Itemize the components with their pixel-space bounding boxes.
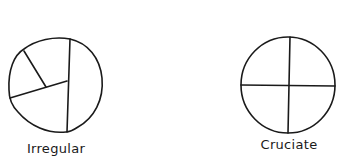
irregular-diagram <box>9 38 102 132</box>
cruciate-label: Cruciate <box>229 137 342 152</box>
irregular-label: Irregular <box>0 141 116 156</box>
cruciate-diagram <box>241 37 335 133</box>
irregular-line-vertical <box>67 39 70 132</box>
cruciate-line-horizontal <box>241 85 335 86</box>
irregular-line-short <box>24 51 46 87</box>
irregular-line-diagonal <box>10 81 67 98</box>
